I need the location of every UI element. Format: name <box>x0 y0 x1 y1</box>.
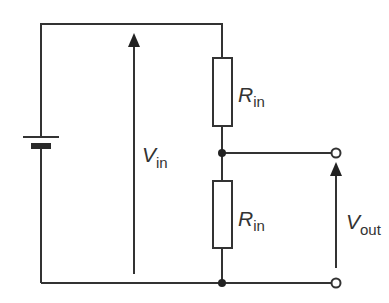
resistor-top <box>213 58 232 126</box>
vin-label: Vin <box>142 143 168 171</box>
resistor-bottom <box>213 181 232 248</box>
terminal-bottom <box>332 279 341 288</box>
junction-middle <box>218 149 226 157</box>
junction-bottom <box>218 279 226 287</box>
vin-arrow-icon <box>128 33 140 274</box>
resistor-bottom-label: Rin <box>238 207 265 234</box>
vout-label: Vout <box>346 210 382 238</box>
vout-arrow-icon <box>330 162 342 268</box>
left-wire <box>41 24 222 283</box>
terminal-top <box>332 149 341 158</box>
circuit-diagram: Rin Rin Vin Vout <box>0 0 389 303</box>
resistor-top-label: Rin <box>238 83 265 110</box>
battery-icon <box>23 137 59 149</box>
